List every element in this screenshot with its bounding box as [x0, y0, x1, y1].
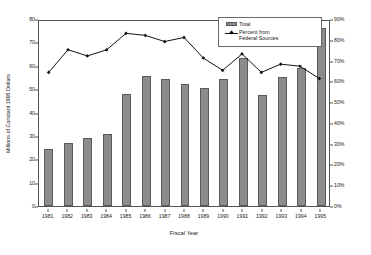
- y-tick-mark-right-80: [330, 40, 333, 41]
- x-tick-label-1989: 1989: [198, 214, 210, 219]
- x-tick-label-1984: 1984: [100, 214, 112, 219]
- legend-label-total: Total: [239, 21, 250, 27]
- x-tick-label-1982: 1982: [61, 214, 73, 219]
- x-tick-mark-1986: [145, 209, 146, 212]
- bar-swatch-icon: [226, 22, 237, 26]
- y-tick-label-right-0: 0%: [334, 204, 342, 209]
- line-series-layer: [39, 21, 329, 206]
- x-tick-label-1988: 1988: [178, 214, 190, 219]
- y-tick-mark-left-20: [35, 160, 38, 161]
- y-tick-mark-left-60: [35, 66, 38, 67]
- y-tick-label-right-80: 80%: [334, 38, 344, 43]
- y-tick-mark-left-30: [35, 136, 38, 137]
- y-tick-mark-right-50: [330, 103, 333, 104]
- y-tick-mark-left-10: [35, 183, 38, 184]
- y-axis-left-ticks: 01020304050607080: [18, 20, 35, 207]
- x-tick-mark-1993: [281, 209, 282, 212]
- y-axis-title: Millions of Constant 1995 Dollars: [2, 20, 14, 207]
- y-tick-mark-left-80: [35, 20, 38, 21]
- y-tick-mark-right-40: [330, 123, 333, 124]
- x-tick-mark-1985: [125, 209, 126, 212]
- line-marker-swatch-icon: [225, 30, 238, 36]
- x-tick-mark-1982: [67, 209, 68, 212]
- x-tick-mark-1983: [86, 209, 87, 212]
- x-tick-label-1985: 1985: [120, 214, 132, 219]
- y-tick-mark-right-30: [330, 144, 333, 145]
- y-tick-mark-left-40: [35, 113, 38, 114]
- x-axis-ticks: 1981198219831984198519861987198819891990…: [38, 209, 330, 223]
- x-tick-label-1990: 1990: [217, 214, 229, 219]
- line-marker-1987: [163, 40, 167, 44]
- x-tick-mark-1987: [164, 209, 165, 212]
- y-tick-label-right-60: 60%: [334, 80, 344, 85]
- x-tick-label-1986: 1986: [139, 214, 151, 219]
- x-tick-label-1993: 1993: [276, 214, 288, 219]
- x-tick-mark-1988: [184, 209, 185, 212]
- x-axis-title: Fiscal Year: [38, 230, 330, 236]
- x-tick-mark-1995: [320, 209, 321, 212]
- x-tick-label-1995: 1995: [314, 214, 326, 219]
- y-axis-right-ticks: 0%10%20%30%40%50%60%70%80%90%: [334, 20, 364, 207]
- legend-bar-swatch-wrap: [223, 21, 239, 26]
- x-tick-label-1992: 1992: [256, 214, 268, 219]
- y-tick-mark-right-0: [330, 207, 333, 208]
- y-tick-mark-right-10: [330, 186, 333, 187]
- y-tick-mark-left-50: [35, 90, 38, 91]
- y-tick-label-right-20: 20%: [334, 163, 344, 168]
- legend-line-swatch-wrap: [223, 29, 239, 36]
- y-tick-mark-left-70: [35, 43, 38, 44]
- chart-figure: Millions of Constant 1995 Dollars 010203…: [0, 0, 371, 255]
- legend-item-total: Total: [223, 21, 317, 27]
- x-tick-mark-1989: [203, 209, 204, 212]
- y-tick-mark-left-0: [35, 207, 38, 208]
- x-tick-label-1983: 1983: [81, 214, 93, 219]
- x-tick-label-1981: 1981: [42, 214, 54, 219]
- line-marker-1983: [86, 54, 90, 58]
- y-tick-mark-right-70: [330, 61, 333, 62]
- x-tick-mark-1984: [106, 209, 107, 212]
- y-tick-mark-right-20: [330, 165, 333, 166]
- x-tick-mark-1994: [300, 209, 301, 212]
- y-tick-label-right-30: 30%: [334, 142, 344, 147]
- chart-legend: Total Percent from Federal Sources: [218, 17, 322, 47]
- y-tick-label-right-10: 10%: [334, 184, 344, 189]
- legend-item-percent-federal: Percent from Federal Sources: [223, 29, 317, 41]
- y-tick-mark-right-90: [330, 20, 333, 21]
- x-tick-mark-1992: [261, 209, 262, 212]
- y-tick-label-right-90: 90%: [334, 17, 344, 22]
- x-tick-label-1994: 1994: [295, 214, 307, 219]
- legend-label-percent-federal: Percent from Federal Sources: [239, 29, 279, 41]
- y-tick-label-right-40: 40%: [334, 121, 344, 126]
- line-marker-1993: [279, 62, 283, 66]
- x-tick-label-1991: 1991: [237, 214, 249, 219]
- y-tick-label-right-70: 70%: [334, 59, 344, 64]
- x-tick-mark-1991: [242, 209, 243, 212]
- x-tick-mark-1990: [222, 209, 223, 212]
- y-tick-label-right-50: 50%: [334, 101, 344, 106]
- plot-area: [38, 20, 330, 207]
- x-tick-mark-1981: [47, 209, 48, 212]
- x-tick-label-1987: 1987: [159, 214, 171, 219]
- line-marker-1986: [144, 34, 148, 38]
- y-tick-mark-right-60: [330, 82, 333, 83]
